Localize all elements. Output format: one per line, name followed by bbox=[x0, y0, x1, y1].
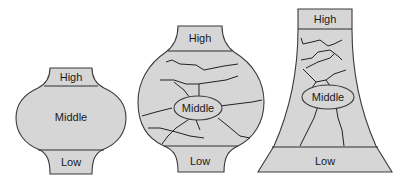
shape-2-low-label: Low bbox=[190, 155, 210, 167]
class-structure-diagram: High Middle Low High Middle Low bbox=[0, 0, 405, 185]
shape-1-middle-label: Middle bbox=[55, 111, 87, 123]
shape-1-low-label: Low bbox=[61, 156, 81, 168]
shape-3-high-label: High bbox=[314, 13, 337, 25]
shape-3-middle-label: Middle bbox=[312, 91, 344, 103]
shape-2-vase: High Middle Low bbox=[138, 26, 264, 172]
shape-1-high-label: High bbox=[60, 71, 83, 83]
shape-3-low-label: Low bbox=[315, 155, 335, 167]
shape-2-middle-label: Middle bbox=[182, 102, 214, 114]
shape-1-vase: High Middle Low bbox=[16, 68, 126, 174]
shape-3-tower: High Middle Low bbox=[258, 9, 392, 172]
shape-2-high-label: High bbox=[189, 32, 212, 44]
